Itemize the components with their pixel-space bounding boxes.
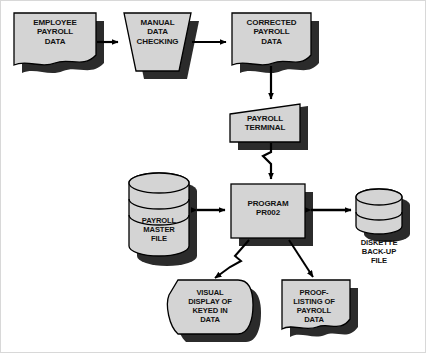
shape-program-pr002[interactable]	[231, 184, 305, 238]
flowchart-canvas: EMPLOYEE PAYROLL DATA MANUAL DATA CHECKI…	[0, 0, 426, 353]
shape-bodies	[14, 13, 402, 334]
shape-employee-payroll-data[interactable]	[14, 13, 96, 65]
payroll-master-file-top-ellipse	[129, 173, 189, 193]
shape-corrected-payroll-data[interactable]	[232, 13, 311, 65]
shape-payroll-terminal[interactable]	[230, 104, 300, 142]
shape-proof-listing-of-payroll-data[interactable]	[282, 280, 350, 329]
shape-visual-display-of-keyed-in-data[interactable]	[167, 280, 253, 334]
connector-program-to-visual-display	[215, 240, 249, 278]
flowchart-graphics	[1, 1, 426, 353]
shape-manual-data-checking[interactable]	[124, 13, 191, 71]
diskette-top-ellipse	[356, 189, 402, 205]
